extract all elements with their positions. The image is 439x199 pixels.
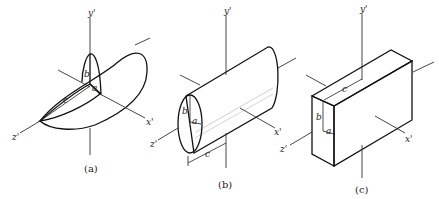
x-axis-label-c: x'	[405, 134, 413, 144]
z-axis-c	[290, 132, 312, 145]
panel-a-ellipsoid: y' x' z' b a c (a)	[11, 8, 154, 174]
ellipsoid-section-ca	[40, 84, 100, 121]
axis-back-c	[413, 62, 434, 72]
axis-back-a	[135, 38, 150, 45]
a-label-c: a	[326, 126, 331, 136]
cylinder-highlight-2	[195, 94, 273, 138]
x-axis-label-a: x'	[146, 117, 154, 127]
y-axis-label-b: y'	[223, 6, 232, 16]
cylinder-highlight	[196, 88, 273, 132]
b-label-b: b	[182, 106, 188, 116]
c-label-c: c	[342, 84, 347, 94]
x-axis-label-b: x'	[274, 127, 282, 137]
z-axis-a	[20, 121, 40, 133]
panel-b-cylinder: y' x' z' b a c (b)	[149, 6, 296, 190]
z-axis-b	[158, 128, 178, 140]
caption-b: (b)	[218, 179, 232, 190]
b-label-c: b	[316, 112, 322, 122]
x-axis-back-c	[306, 75, 326, 86]
z-axis-label-a: z'	[11, 132, 19, 142]
y-axis-label-c: y'	[359, 4, 368, 14]
x-axis-back-b	[180, 75, 200, 85]
x-axis-front-b	[240, 108, 275, 128]
x-axis-front-a	[100, 94, 145, 118]
y-axis-label-a: y'	[87, 8, 96, 18]
figure-canvas: y' x' z' b a c (a) y' x' z' b a c	[0, 0, 439, 199]
b-label-a: b	[84, 69, 90, 79]
caption-c: (c)	[355, 184, 369, 195]
z-axis-label-b: z'	[149, 139, 157, 149]
z-axis-label-c: z'	[279, 144, 287, 154]
cylinder-body	[186, 47, 278, 153]
axis-back-b	[278, 58, 296, 68]
c-label-b: c	[205, 149, 210, 159]
panel-c-block: y' x' z' b a c (c)	[279, 4, 434, 195]
x-axis-front-c	[375, 116, 405, 133]
c-label-a: c	[63, 95, 68, 105]
caption-a: (a)	[84, 163, 98, 174]
a-label-b: a	[192, 116, 197, 126]
a-label-a: a	[92, 83, 97, 93]
